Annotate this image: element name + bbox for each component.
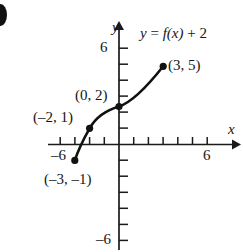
x-tick-label-neg6: –6 — [51, 148, 66, 163]
figure-canvas: y x 6 –6 –6 6 y = f(x) + 2 (3, 5) (0, 2)… — [0, 0, 243, 252]
y-tick-label-neg6: –6 — [96, 232, 111, 247]
point-label-0-2: (0, 2) — [75, 88, 108, 103]
point-label-neg3-neg1: (–3, –1) — [44, 172, 92, 187]
equation-y: y — [140, 25, 147, 41]
point-label-neg2-1: (–2, 1) — [33, 110, 73, 125]
point-marker-0-2 — [115, 103, 122, 110]
x-axis-label: x — [228, 122, 235, 137]
y-axis-label: y — [112, 20, 119, 35]
y-tick-label-6: 6 — [100, 40, 108, 55]
point-marker-neg2-1 — [86, 125, 93, 132]
point-label-3-5: (3, 5) — [168, 58, 201, 73]
equation-suffix: + 2 — [183, 25, 206, 41]
point-marker-3-5 — [160, 63, 167, 70]
function-equation-label: y = f(x) + 2 — [140, 26, 207, 41]
point-marker-neg3-neg1 — [71, 157, 78, 164]
x-axis-arrowhead — [232, 140, 241, 150]
equation-equals: = — [147, 25, 163, 41]
x-tick-label-6: 6 — [203, 148, 211, 163]
equation-arg: (x) — [167, 25, 184, 41]
